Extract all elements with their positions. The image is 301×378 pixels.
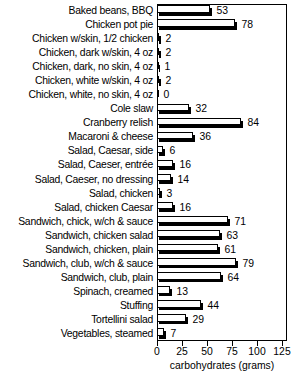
category-label: Stuffing — [120, 299, 153, 313]
bar-row: 14 — [157, 173, 287, 187]
bar-value-label: 16 — [180, 158, 192, 172]
bar-value-label: 2 — [166, 32, 172, 46]
bar — [157, 19, 235, 26]
category-label: Cole slaw — [110, 102, 153, 116]
bars-layer: 5378221203284366161431671636179641344297 — [157, 4, 287, 341]
bar-value-label: 14 — [178, 173, 190, 187]
bar-row: 84 — [157, 116, 287, 130]
bar-row: 16 — [157, 158, 287, 172]
bar-row: 44 — [157, 299, 287, 313]
bar — [157, 146, 163, 153]
bar — [157, 90, 159, 97]
category-label: Salad, Caeser, entrée — [58, 158, 153, 172]
category-label: Vegetables, steamed — [61, 327, 153, 341]
bar-row: 64 — [157, 271, 287, 285]
bar-value-label: 0 — [164, 88, 170, 102]
category-label: Cranberry relish — [83, 116, 153, 130]
category-label: Sandwich, chicken, plain — [45, 243, 153, 257]
bar — [157, 244, 218, 251]
bar — [157, 118, 241, 125]
bar-row: 3 — [157, 187, 287, 201]
bar-value-label: 78 — [242, 18, 254, 32]
bar-shadow — [159, 36, 161, 43]
bar-row: 53 — [157, 4, 287, 18]
bar — [157, 272, 221, 279]
bar-value-label: 7 — [171, 327, 177, 341]
category-axis-labels: Baked beans, BBQChicken pot pieChicken w… — [0, 4, 155, 341]
bar-row: 0 — [157, 88, 287, 102]
bar — [157, 5, 210, 12]
x-axis-tick-label: 0 — [154, 346, 160, 358]
bar-value-label: 2 — [166, 46, 172, 60]
bar-value-label: 61 — [225, 243, 237, 257]
bar — [157, 104, 189, 111]
bar-row: 78 — [157, 18, 287, 32]
bar-value-label: 29 — [193, 313, 205, 327]
category-label: Spinach, creamed — [73, 285, 153, 299]
category-label: Salad, Caeser, no dressing — [35, 173, 153, 187]
bar — [157, 132, 193, 139]
bar-value-label: 1 — [165, 60, 171, 74]
bar-shadow — [159, 65, 160, 72]
category-label: Salad, chicken — [89, 187, 153, 201]
category-label: Macaroni & cheese — [68, 130, 153, 144]
category-label: Chicken, dark, no skin, 4 oz — [32, 60, 153, 74]
bar-row: 1 — [157, 60, 287, 74]
bar-row: 16 — [157, 201, 287, 215]
bar — [157, 216, 228, 223]
bar-shadow — [159, 51, 161, 58]
bar-value-label: 13 — [177, 285, 189, 299]
bar-shadow — [159, 79, 161, 86]
bar-value-label: 79 — [243, 257, 255, 271]
bar-row: 2 — [157, 74, 287, 88]
x-axis: carbohydrates (grams) 0255075100125 — [157, 341, 287, 377]
bar-value-label: 64 — [228, 271, 240, 285]
bar-row: 13 — [157, 285, 287, 299]
bar-row: 7 — [157, 327, 287, 341]
category-label: Chicken, white, no skin, 4 oz — [29, 88, 153, 102]
category-label: Tortellini salad — [91, 313, 153, 327]
bar-row: 2 — [157, 32, 287, 46]
bar-value-label: 2 — [166, 74, 172, 88]
x-axis-tick-label: 50 — [201, 346, 213, 358]
category-label: Sandwich, chicken salad — [45, 229, 153, 243]
category-label: Sandwich, club, w/ch & sauce — [23, 257, 153, 271]
bar-row: 63 — [157, 229, 287, 243]
category-label: Baked beans, BBQ — [69, 4, 153, 18]
bar-value-label: 6 — [170, 144, 176, 158]
x-axis-tick-label: 100 — [248, 346, 265, 358]
bar-row: 32 — [157, 102, 287, 116]
category-label: Chicken pot pie — [85, 18, 153, 32]
category-label: Chicken, dark w/skin, 4 oz — [39, 46, 153, 60]
bar — [157, 258, 236, 265]
bar — [157, 314, 186, 321]
bar — [157, 160, 173, 167]
bar — [157, 188, 160, 195]
bar-row: 71 — [157, 215, 287, 229]
category-label: Salad, chicken Caesar — [54, 201, 153, 215]
bar-value-label: 84 — [248, 116, 260, 130]
bar — [157, 286, 170, 293]
bar-chart: Baked beans, BBQChicken pot pieChicken w… — [0, 0, 301, 378]
bar — [157, 33, 159, 40]
bar — [157, 174, 171, 181]
bar-value-label: 53 — [217, 4, 229, 18]
x-axis-tick-label: 125 — [273, 346, 290, 358]
bar — [157, 76, 159, 83]
bar-value-label: 32 — [196, 102, 208, 116]
bar-row: 2 — [157, 46, 287, 60]
x-axis-tick-label: 25 — [176, 346, 188, 358]
bar-row: 79 — [157, 257, 287, 271]
bar — [157, 202, 173, 209]
bar-row: 36 — [157, 130, 287, 144]
bar-value-label: 71 — [235, 215, 247, 229]
bar — [157, 300, 201, 307]
bar — [157, 328, 164, 335]
x-axis-tick-label: 75 — [226, 346, 238, 358]
category-label: Salad, Caesar, side — [68, 144, 153, 158]
category-label: Chicken w/skin, 1/2 chicken — [32, 32, 153, 46]
bar-row: 6 — [157, 144, 287, 158]
bar — [157, 48, 159, 55]
bar — [157, 62, 159, 69]
category-label: Sandwich, chick, w/ch & sauce — [18, 215, 153, 229]
